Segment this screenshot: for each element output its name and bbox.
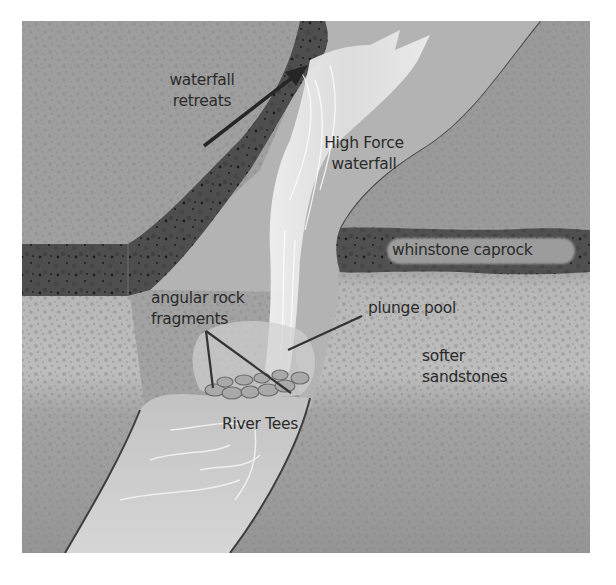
label-high-force-line1: High Force xyxy=(308,133,420,154)
label-river-tees: River Tees xyxy=(222,414,298,435)
label-waterfall-retreats-line1: waterfall xyxy=(146,70,258,91)
label-angular-rock-line2: fragments xyxy=(151,309,245,330)
label-softer-sandstones: softer sandstones xyxy=(422,346,507,388)
label-softer-line2: sandstones xyxy=(422,367,507,388)
label-waterfall-retreats: waterfall retreats xyxy=(146,70,258,112)
label-softer-line1: softer xyxy=(422,346,507,367)
label-high-force-waterfall: High Force waterfall xyxy=(308,133,420,175)
label-whinstone-caprock: whinstone caprock xyxy=(392,240,532,261)
high-force-waterfall-diagram xyxy=(0,0,616,585)
label-high-force-line2: waterfall xyxy=(308,154,420,175)
label-plunge-pool: plunge pool xyxy=(368,298,456,319)
label-angular-rock-fragments: angular rock fragments xyxy=(151,288,245,330)
label-angular-rock-line1: angular rock xyxy=(151,288,245,309)
label-waterfall-retreats-line2: retreats xyxy=(146,91,258,112)
